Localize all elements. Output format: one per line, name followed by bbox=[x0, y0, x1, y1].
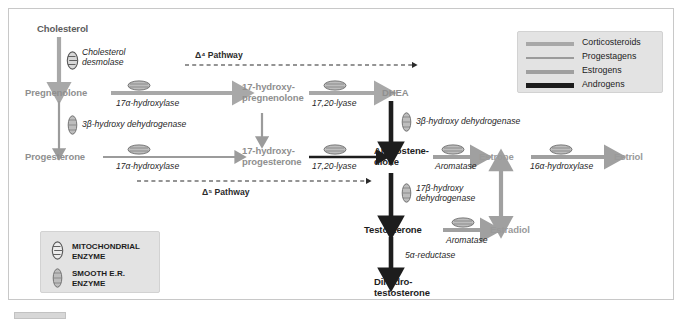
enzyme-key-label-smooth-er: SMOOTH E.R. ENZYME bbox=[72, 269, 125, 288]
legend-swatch-estrogens bbox=[526, 70, 574, 74]
legend-swatch-androgens bbox=[526, 83, 574, 88]
enzyme-17-20-lyase-top: 17,20-lyase bbox=[312, 98, 356, 108]
enzyme-17alpha-hydroxylase-top: 17α-hydroxylase bbox=[116, 98, 179, 108]
node-estrone: Estrone bbox=[479, 152, 514, 163]
node-progesterone: Progesterone bbox=[25, 152, 85, 163]
legend-panel: Corticosteroids Progestagens Estrogens A… bbox=[517, 31, 663, 93]
mitochondrial-enzyme-icon bbox=[51, 241, 64, 260]
smooth-er-enzyme-icon bbox=[401, 112, 412, 132]
node-dhea: DHEA bbox=[382, 88, 409, 99]
legend-swatch-corticosteroids bbox=[526, 42, 574, 46]
legend-label-estrogens: Estrogens bbox=[582, 65, 622, 75]
node-estradiol: Estradiol bbox=[490, 225, 530, 236]
smooth-er-enzyme-icon bbox=[451, 217, 475, 228]
node-17-hydroxypregnenolone: 17-hydroxy- pregnenolone bbox=[242, 82, 304, 103]
enzyme-aromatase-estradiol: Aromatase bbox=[446, 235, 488, 245]
enzyme-cholesterol-desmolase: Cholesterol desmolase bbox=[82, 47, 125, 67]
node-cholesterol: Cholesterol bbox=[37, 24, 88, 35]
enzyme-3beta-hsd-left: 3β-hydroxy dehydrogenase bbox=[82, 119, 186, 129]
enzyme-17alpha-hydroxylase-bottom: 17α-hydroxylase bbox=[116, 161, 179, 171]
diagram-frame: Cholesterol Pregnenolone Progesterone 17… bbox=[8, 8, 674, 300]
node-androstenedione: Androstene- dione bbox=[374, 146, 429, 167]
smooth-er-enzyme-icon bbox=[127, 144, 151, 155]
enzyme-16alpha-hydroxylase: 16α-hydroxylase bbox=[530, 161, 593, 171]
enzyme-17-20-lyase-bottom: 17,20-lyase bbox=[312, 161, 356, 171]
node-estriol: Estriol bbox=[614, 152, 643, 163]
legend-label-androgens: Androgens bbox=[582, 79, 625, 89]
smooth-er-enzyme-icon bbox=[401, 183, 412, 203]
enzyme-key-label-mitochondrial: MITOCHONDRIAL ENZYME bbox=[72, 242, 140, 261]
smooth-er-enzyme-icon bbox=[52, 268, 63, 288]
enzyme-3beta-hsd-right: 3β-hydroxy dehydrogenase bbox=[416, 116, 520, 126]
smooth-er-enzyme-icon bbox=[441, 144, 465, 155]
enzyme-5alpha-reductase: 5α-reductase bbox=[405, 250, 455, 260]
smooth-er-enzyme-icon bbox=[127, 80, 151, 91]
legend-label-progestagens: Progestagens bbox=[582, 51, 636, 61]
node-pregnenolone: Pregnenolone bbox=[25, 88, 87, 99]
pathway-label-delta5: Δ⁵ Pathway bbox=[202, 187, 249, 197]
node-17-hydroxyprogesterone: 17-hydroxy- progesterone bbox=[242, 146, 302, 167]
legend-label-corticosteroids: Corticosteroids bbox=[582, 37, 641, 47]
smooth-er-enzyme-icon bbox=[549, 144, 573, 155]
footer-bar bbox=[14, 312, 66, 319]
enzyme-17beta-hsd: 17β-hydroxy dehydrogenase bbox=[416, 183, 475, 203]
smooth-er-enzyme-icon bbox=[67, 115, 78, 135]
enzyme-key-panel: MITOCHONDRIAL ENZYME SMOOTH E.R. ENZYME bbox=[40, 231, 160, 293]
smooth-er-enzyme-icon bbox=[323, 80, 347, 91]
pathway-label-delta4: Δ⁴ Pathway bbox=[195, 50, 243, 60]
smooth-er-enzyme-icon bbox=[323, 144, 347, 155]
legend-swatch-progestagens bbox=[526, 57, 574, 59]
enzyme-aromatase-estrone: Aromatase bbox=[435, 161, 477, 171]
node-testosterone: Testosterone bbox=[364, 225, 422, 236]
mitochondrial-enzyme-icon bbox=[66, 51, 79, 70]
node-dihydrotestosterone: Dihydro- testosterone bbox=[374, 277, 430, 298]
steroidogenesis-diagram: Cholesterol Pregnenolone Progesterone 17… bbox=[0, 0, 684, 326]
